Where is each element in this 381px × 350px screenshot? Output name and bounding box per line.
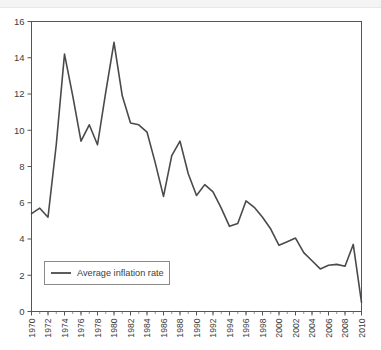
x-tick-label: 2008 (340, 318, 350, 337)
chart-legend: Average inflation rate (45, 262, 170, 285)
y-tick-label: 10 (14, 125, 25, 136)
x-tick-label: 1982 (126, 318, 136, 337)
x-tick-label: 2004 (307, 318, 317, 337)
x-tick-label: 1998 (258, 318, 268, 337)
x-axis-ticks (32, 312, 362, 316)
x-tick-label: 1970 (27, 318, 37, 337)
y-tick-label: 0 (19, 306, 24, 317)
y-tick-label: 4 (19, 233, 24, 244)
y-tick-label: 2 (19, 270, 24, 281)
y-axis-ticks (28, 22, 32, 312)
legend-label: Average inflation rate (77, 268, 164, 278)
x-tick-label: 1984 (142, 318, 152, 337)
x-tick-label: 2000 (274, 318, 284, 337)
line-chart: 0246810121416 19701972197419761978198019… (0, 0, 381, 350)
y-tick-label: 14 (14, 52, 25, 63)
y-tick-label: 16 (14, 16, 25, 27)
y-tick-label: 6 (19, 197, 24, 208)
y-axis-tick-labels: 0246810121416 (14, 16, 25, 317)
x-tick-label: 1980 (109, 318, 119, 337)
x-tick-label: 1974 (60, 318, 70, 337)
x-tick-label: 1996 (241, 318, 251, 337)
x-tick-label: 1990 (192, 318, 202, 337)
top-band (0, 0, 381, 8)
x-axis-tick-labels: 1970197219741976197819801982198419861988… (27, 318, 367, 337)
x-tick-label: 1986 (159, 318, 169, 337)
x-tick-label: 2006 (324, 318, 334, 337)
y-tick-label: 12 (14, 88, 25, 99)
x-tick-label: 1994 (225, 318, 235, 337)
x-tick-label: 1992 (208, 318, 218, 337)
chart-figure: 0246810121416 19701972197419761978198019… (0, 0, 381, 350)
x-tick-label: 1972 (43, 318, 53, 337)
x-tick-label: 1988 (175, 318, 185, 337)
x-tick-label: 2010 (357, 318, 367, 337)
x-tick-label: 1978 (93, 318, 103, 337)
x-tick-label: 1976 (76, 318, 86, 337)
y-tick-label: 8 (19, 161, 24, 172)
x-tick-label: 2002 (291, 318, 301, 337)
